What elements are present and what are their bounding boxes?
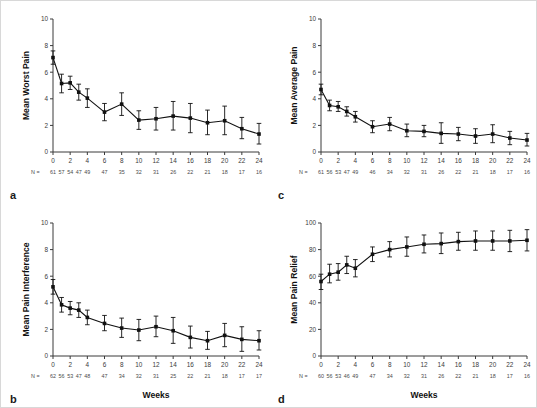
x-tick-label: 14 — [170, 157, 178, 164]
n-value-label: 21 — [205, 169, 211, 175]
chart-panel-b: 0246810024681012141618202224N =625653474… — [1, 205, 269, 408]
panel-letter-d: d — [278, 393, 285, 405]
y-tick-label: 10 — [41, 15, 49, 22]
n-value-label: 46 — [344, 373, 350, 379]
n-value-label: 25 — [170, 373, 176, 379]
n-value-label: 32 — [136, 169, 142, 175]
data-point-marker — [371, 125, 375, 129]
n-value-label: 17 — [507, 169, 513, 175]
data-point-marker — [206, 121, 210, 125]
data-point-marker — [51, 285, 55, 289]
y-tick-label: 2 — [312, 122, 316, 129]
x-tick-label: 8 — [120, 157, 124, 164]
x-tick-label: 22 — [506, 361, 514, 368]
x-tick-label: 10 — [403, 361, 411, 368]
data-point-marker — [51, 56, 55, 60]
x-tick-label: 12 — [152, 361, 160, 368]
y-tick-label: 4 — [312, 95, 316, 102]
data-point-marker — [336, 105, 340, 109]
y-tick-label: 6 — [44, 273, 48, 280]
n-value-label: 22 — [455, 373, 461, 379]
n-value-label: 21 — [473, 169, 479, 175]
x-tick-label: 24 — [255, 157, 263, 164]
n-value-label: 31 — [153, 169, 159, 175]
x-tick-label: 18 — [204, 361, 212, 368]
figure-container: 0246810024681012141618202224N =615754474… — [0, 0, 537, 408]
data-point-marker — [405, 129, 409, 133]
x-tick-label: 4 — [86, 361, 90, 368]
x-tick-label: 2 — [336, 361, 340, 368]
n-row-prefix: N = — [31, 169, 40, 175]
data-point-marker — [60, 303, 64, 307]
x-tick-label: 2 — [68, 157, 72, 164]
n-value-label: 62 — [50, 373, 56, 379]
n-value-label: 49 — [84, 169, 90, 175]
data-point-marker — [189, 336, 193, 340]
y-tick-label: 0 — [312, 352, 316, 359]
y-tick-label: 8 — [44, 246, 48, 253]
x-tick-label: 24 — [255, 361, 263, 368]
x-tick-label: 2 — [68, 361, 72, 368]
y-axis-title: Mean Pain Relief — [289, 255, 299, 323]
data-point-marker — [319, 280, 323, 284]
data-point-marker — [525, 238, 529, 242]
x-tick-label: 18 — [204, 157, 212, 164]
n-value-label: 22 — [455, 169, 461, 175]
x-tick-label: 22 — [238, 157, 246, 164]
data-point-marker — [345, 110, 349, 114]
y-tick-label: 6 — [312, 69, 316, 76]
panel-letter-b: b — [10, 393, 17, 405]
n-value-label: 26 — [438, 169, 444, 175]
data-point-marker — [388, 122, 392, 126]
data-point-marker — [137, 328, 141, 332]
data-point-marker — [474, 134, 478, 138]
chart-panel-a: 0246810024681012141618202224N =615754474… — [1, 1, 269, 205]
data-point-marker — [189, 116, 193, 120]
data-point-marker — [336, 270, 340, 274]
x-tick-label: 20 — [489, 157, 497, 164]
data-point-marker — [439, 132, 443, 136]
data-point-marker — [354, 266, 358, 270]
n-value-label: 47 — [76, 373, 82, 379]
data-point-marker — [474, 239, 478, 243]
n-value-label: 48 — [84, 373, 90, 379]
y-tick-label: 80 — [309, 246, 317, 253]
x-tick-label: 6 — [371, 361, 375, 368]
n-value-label: 61 — [318, 169, 324, 175]
data-point-marker — [68, 81, 72, 85]
plot-b: 0246810024681012141618202224N =625653474… — [1, 205, 269, 408]
y-tick-label: 2 — [44, 326, 48, 333]
x-tick-label: 6 — [103, 361, 107, 368]
y-tick-label: 8 — [312, 42, 316, 49]
data-point-marker — [154, 325, 158, 329]
n-value-label: 31 — [153, 373, 159, 379]
data-point-marker — [154, 117, 158, 121]
x-tick-label: 4 — [86, 157, 90, 164]
x-tick-label: 22 — [238, 361, 246, 368]
x-tick-label: 22 — [506, 157, 514, 164]
data-point-marker — [103, 110, 107, 114]
x-tick-label: 10 — [135, 157, 143, 164]
y-tick-label: 10 — [309, 15, 317, 22]
x-tick-label: 12 — [420, 157, 428, 164]
data-point-marker — [223, 334, 227, 338]
y-tick-label: 8 — [44, 42, 48, 49]
data-point-marker — [240, 338, 244, 342]
data-point-marker — [86, 96, 90, 100]
x-tick-label: 18 — [472, 157, 480, 164]
x-tick-label: 20 — [221, 157, 229, 164]
n-value-label: 17 — [239, 169, 245, 175]
data-point-marker — [328, 104, 332, 108]
data-point-marker — [171, 114, 175, 118]
y-tick-label: 0 — [44, 148, 48, 155]
data-point-marker — [345, 263, 349, 267]
n-value-label: 56 — [327, 169, 333, 175]
n-value-label: 16 — [256, 169, 262, 175]
n-value-label: 60 — [318, 373, 324, 379]
n-row-prefix: N = — [299, 169, 308, 175]
n-value-label: 21 — [473, 373, 479, 379]
x-tick-label: 16 — [455, 157, 463, 164]
data-point-marker — [508, 239, 512, 243]
data-point-marker — [457, 132, 461, 136]
data-point-marker — [86, 316, 90, 320]
